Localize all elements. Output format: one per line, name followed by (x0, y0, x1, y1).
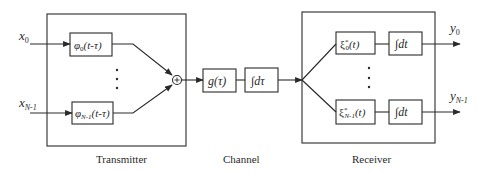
block-diagram: x0 xN-1 φ0(t-τ) φN-1(t-τ) g(τ) ∫dτ ξ*0(t… (0, 0, 481, 173)
fan-to-xi0 (302, 44, 336, 80)
phi0-to-sum (112, 44, 172, 75)
phiN1-label: φN-1(t-τ) (75, 107, 110, 121)
int0-label: ∫dt (394, 37, 408, 51)
transmitter-ellipsis (116, 69, 118, 89)
output-label-y0: y0 (448, 20, 460, 37)
channel-label: Channel (223, 153, 260, 165)
xi0-label: ξ*0(t) (340, 38, 360, 52)
int-tau-label: ∫dτ (250, 74, 265, 88)
input-label-xN1: xN-1 (18, 95, 37, 112)
xiN1-label: ξ*N-1(t) (339, 106, 366, 120)
receiver-label: Receiver (352, 153, 391, 165)
phi0-label: φ0(t-τ) (74, 39, 102, 53)
output-label-yN1: yN-1 (448, 88, 468, 105)
receiver-ellipsis (368, 67, 370, 88)
fan-to-xiN1 (302, 80, 336, 112)
g-label: g(τ) (208, 74, 226, 88)
intN1-label: ∫dt (394, 105, 408, 119)
input-label-x0: x0 (18, 28, 29, 45)
phiN1-to-sum (113, 85, 172, 113)
transmitter-label: Transmitter (96, 153, 147, 165)
